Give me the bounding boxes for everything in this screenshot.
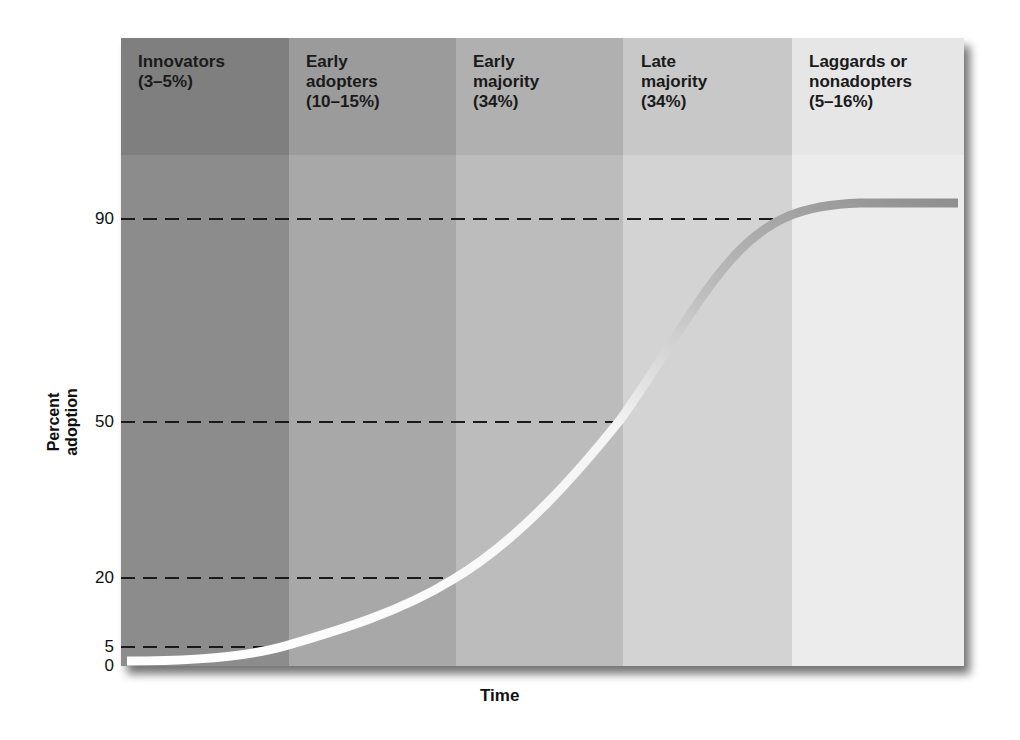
y-tick-20: 20 [74,568,114,588]
column-title-late-majority: Late majority (34%) [641,52,707,112]
column-title-innovators: Innovators (3–5%) [138,52,225,92]
x-axis-label: Time [480,686,519,706]
y-tick-5: 5 [74,637,114,657]
column-title-laggards: Laggards or nonadopters (5–16%) [809,52,912,112]
y-axis-label: Percent adoption [45,357,81,487]
y-tick-90: 90 [74,209,114,229]
column-title-early-adopters: Early adopters (10–15%) [306,52,380,112]
column-title-early-majority: Early majority (34%) [473,52,539,112]
y-tick-0: 0 [74,656,114,676]
diffusion-of-innovation-chart: Innovators (3–5%) Early adopters (10–15%… [0,0,1020,740]
